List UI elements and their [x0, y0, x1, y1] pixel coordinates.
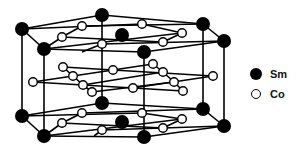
legend-label-co: Co — [270, 88, 285, 100]
open-circle-icon — [251, 89, 261, 99]
legend: Sm Co — [250, 64, 287, 104]
filled-circle-icon — [250, 68, 262, 80]
crystal-structure-diagram — [0, 0, 240, 152]
legend-item-co: Co — [250, 84, 287, 104]
legend-label-sm: Sm — [270, 68, 287, 80]
legend-item-sm: Sm — [250, 64, 287, 84]
